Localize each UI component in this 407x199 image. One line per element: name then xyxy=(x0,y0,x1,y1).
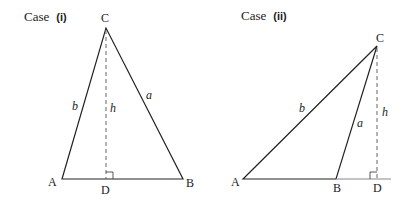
case-ii-point-d: D xyxy=(373,181,382,195)
case-i-vertex-b: B xyxy=(186,176,194,190)
case-ii-triangle xyxy=(243,46,377,179)
case-ii-diagram: Case (ii) C A B D b a h xyxy=(231,6,391,195)
case-i-title: Case (i) xyxy=(24,7,67,24)
case-i-vertex-c: C xyxy=(101,11,109,25)
triangle-diagrams: Case (i) C A B D b h a Case (ii) C A B D… xyxy=(0,0,407,199)
case-i-vertex-a: A xyxy=(48,175,57,189)
case-ii-vertex-b: B xyxy=(333,181,341,195)
case-ii-side-b: b xyxy=(299,101,305,115)
case-ii-right-angle-marker xyxy=(370,172,377,179)
case-ii-height-h: h xyxy=(382,105,388,119)
case-i-side-a: a xyxy=(146,88,152,102)
case-i-side-b: b xyxy=(72,99,78,113)
case-ii-vertex-a: A xyxy=(231,175,240,189)
case-ii-vertex-c: C xyxy=(376,31,384,45)
case-i-diagram: Case (i) C A B D b h a xyxy=(24,7,194,197)
case-i-right-angle-marker xyxy=(106,172,113,179)
case-i-point-d: D xyxy=(101,183,110,197)
case-i-height-h: h xyxy=(110,101,116,115)
case-ii-side-a: a xyxy=(357,116,363,130)
case-i-triangle xyxy=(62,28,183,179)
case-ii-title: Case (ii) xyxy=(241,6,287,23)
